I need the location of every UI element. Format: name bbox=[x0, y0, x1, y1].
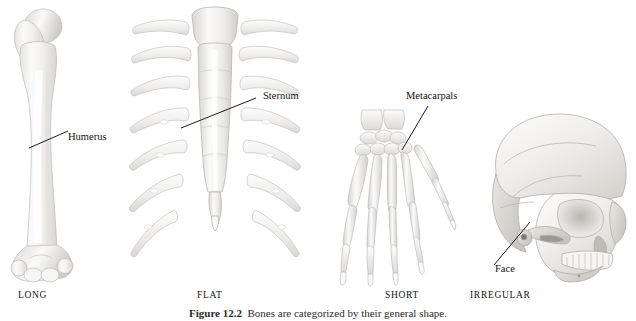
figure-caption-number: Figure 12.2 bbox=[189, 307, 242, 319]
callout-label-face: Face bbox=[495, 263, 515, 274]
sternum-ribs-illustration bbox=[130, 0, 300, 288]
callout-label-metacarpals: Metacarpals bbox=[406, 90, 457, 101]
panel-long-bone: Humerus bbox=[0, 0, 130, 288]
sternum-leader-line bbox=[180, 94, 260, 130]
face-leader-line bbox=[492, 220, 534, 268]
metacarpals-leader-line bbox=[398, 104, 432, 154]
figure-caption: Figure 12.2 Bones are categorized by the… bbox=[0, 307, 636, 321]
hand-skeleton-illustration bbox=[336, 108, 456, 288]
callout-label-humerus: Humerus bbox=[68, 131, 107, 142]
panel-short-bone: Metacarpals bbox=[336, 108, 456, 288]
callout-label-sternum: Sternum bbox=[263, 90, 299, 101]
skull-illustration bbox=[462, 112, 636, 288]
category-label-short: SHORT bbox=[385, 290, 419, 300]
figure-caption-text: Bones are categorized by their general s… bbox=[248, 307, 447, 319]
panel-irregular-bone: Face bbox=[462, 112, 636, 288]
category-label-flat: FLAT bbox=[197, 290, 223, 300]
panel-flat-bone: Sternum bbox=[130, 0, 300, 288]
category-label-irregular: IRREGULAR bbox=[470, 290, 531, 300]
figure-bone-shapes: Humerus bbox=[0, 0, 636, 321]
category-label-long: LONG bbox=[18, 290, 47, 300]
